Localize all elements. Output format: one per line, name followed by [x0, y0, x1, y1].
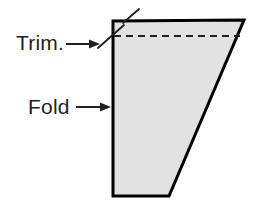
figure-canvas: Trim. Fold	[0, 0, 259, 213]
fold-label: Fold	[28, 95, 70, 118]
folded-sheet-shape	[113, 20, 244, 196]
fold-trim-diagram: Trim. Fold	[0, 0, 259, 213]
fold-arrow-head	[100, 103, 111, 112]
trim-label: Trim.	[16, 31, 64, 54]
